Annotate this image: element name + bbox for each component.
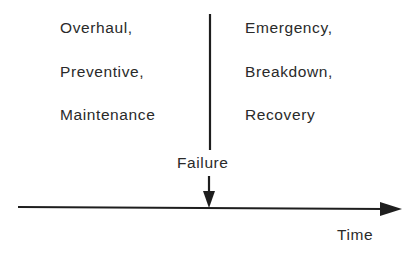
time-axis-arrow-head xyxy=(380,202,402,216)
breakdown-line-2: Breakdown, xyxy=(245,63,333,81)
breakdown-line-1: Emergency, xyxy=(245,19,333,37)
failure-arrow-head xyxy=(203,191,215,208)
diagram-canvas xyxy=(0,0,413,257)
preventive-line-3: Maintenance xyxy=(60,106,155,124)
preventive-line-1: Overhaul, xyxy=(60,19,133,37)
preventive-line-2: Preventive, xyxy=(60,63,144,81)
time-axis xyxy=(18,207,385,209)
failure-label: Failure xyxy=(177,154,229,172)
breakdown-line-3: Recovery xyxy=(245,106,315,124)
time-axis-label: Time xyxy=(337,226,373,244)
